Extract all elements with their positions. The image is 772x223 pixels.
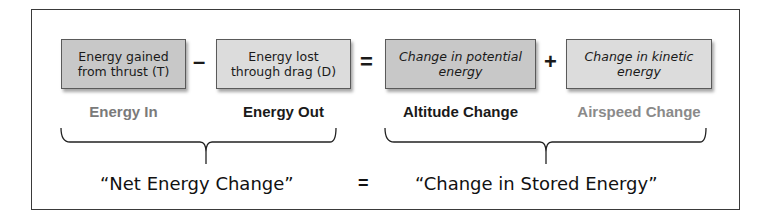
stored-energy-change-text: “Change in Stored Energy” [415,173,658,194]
net-energy-change-text: “Net Energy Change” [100,173,294,194]
left-bracket-icon [61,128,336,164]
bottom-equals: = [358,173,369,194]
right-bracket-icon [385,128,706,164]
